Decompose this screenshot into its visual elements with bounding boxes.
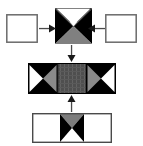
middle-composite-bar xyxy=(28,63,116,94)
cell-right-bowtie xyxy=(86,63,116,94)
cell-right-empty xyxy=(85,113,112,143)
top-center-x-tile-svg xyxy=(55,8,92,44)
top-left-empty-tile xyxy=(6,14,38,43)
diagram-root xyxy=(0,0,143,146)
middle-composite-bar-svg xyxy=(28,63,116,94)
corner-tick-mark-svg xyxy=(89,8,93,12)
arrow-right-to-center xyxy=(88,24,105,33)
arrow-left-to-center xyxy=(39,24,56,33)
top-right-empty-tile xyxy=(105,14,137,43)
arrow-bottom-to-middle-svg xyxy=(67,95,76,112)
top-left-empty-tile-svg xyxy=(6,14,38,43)
bottom-composite-bar xyxy=(32,113,112,143)
arrow-right-to-center-svg xyxy=(88,24,105,33)
cell-left-bowtie xyxy=(28,63,58,94)
cell-center-hatch xyxy=(58,63,86,94)
arrow-top-to-middle-svg xyxy=(67,45,76,62)
arrow-bottom-to-middle xyxy=(67,95,76,112)
bottom-composite-bar-svg xyxy=(32,113,112,143)
top-right-empty-tile-svg xyxy=(105,14,137,43)
arrow-left-to-center-svg xyxy=(39,24,56,33)
arrow-top-to-middle xyxy=(67,45,76,62)
top-center-x-tile xyxy=(55,8,92,44)
cell-center-hourglass xyxy=(59,113,85,143)
cell-left-empty xyxy=(32,113,59,143)
corner-tick-mark xyxy=(89,8,93,12)
